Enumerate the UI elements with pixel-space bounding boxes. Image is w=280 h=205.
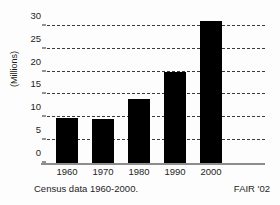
bar-1980[interactable] [128, 99, 150, 163]
bar-1990[interactable] [164, 72, 186, 164]
bar-slot [121, 12, 157, 163]
y-tick-label: 25 [30, 32, 41, 43]
x-tick-label: 1960 [49, 166, 85, 177]
y-tick-mark [42, 116, 46, 117]
x-tick-label: 1980 [121, 166, 157, 177]
y-tick-label: 0 [36, 147, 41, 158]
y-tick-label: 10 [30, 101, 41, 112]
x-tick-label: 1970 [85, 166, 121, 177]
bar-slot [157, 12, 193, 163]
y-tick-label: 20 [30, 55, 41, 66]
bar-1960[interactable] [56, 118, 78, 163]
x-tick-label: 1990 [157, 166, 193, 177]
x-tick-label: 2000 [193, 166, 229, 177]
source-caption: Census data 1960-2000. [34, 183, 138, 194]
credit-caption: FAIR '02 [234, 183, 270, 194]
y-tick-mark [42, 93, 46, 94]
y-tick-mark [42, 47, 46, 48]
x-axis-labels: 19601970198019902000 [47, 166, 265, 177]
y-tick-label: 15 [30, 78, 41, 89]
bar-chart: (Millions) 051015202530 1960197019801990… [0, 0, 280, 205]
bar-slot [85, 12, 121, 163]
bar-slot [193, 12, 229, 163]
y-tick-label: 30 [30, 9, 41, 20]
y-tick-mark [42, 70, 46, 71]
caption-row: Census data 1960-2000. FAIR '02 [0, 183, 280, 199]
plot-area: 051015202530 [47, 12, 265, 163]
y-tick-mark [42, 139, 46, 140]
bar-slot [49, 12, 85, 163]
x-axis-line [41, 163, 265, 165]
y-tick-mark [42, 24, 46, 25]
bar-1970[interactable] [92, 119, 114, 163]
y-axis-title: (Millions) [9, 29, 19, 109]
bars-layer [47, 12, 265, 163]
bar-2000[interactable] [200, 21, 222, 163]
y-tick-label: 5 [36, 124, 41, 135]
